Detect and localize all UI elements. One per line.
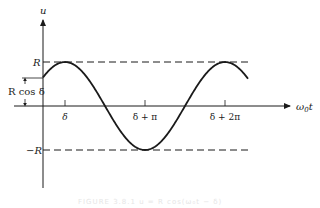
tick-label-delta-plus-2pi: δ + 2π	[210, 112, 240, 122]
lower-level-label: −R	[26, 145, 42, 156]
tick-label-delta-plus-pi: δ + π	[133, 112, 158, 122]
initial-value-label: R cos δ	[8, 86, 45, 97]
horizontal-axis-label: ω0t	[296, 101, 314, 114]
oscillation-diagram: u ω0t R −R R cos δ δ δ + π δ + 2π FIGURE…	[0, 0, 320, 208]
figure-caption: FIGURE 3.8.1 u = R cos(ω₀t − δ)	[78, 198, 222, 206]
upper-level-label: R	[32, 57, 41, 68]
tick-label-delta: δ	[62, 112, 67, 122]
vertical-axis-label: u	[40, 5, 46, 16]
